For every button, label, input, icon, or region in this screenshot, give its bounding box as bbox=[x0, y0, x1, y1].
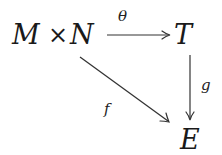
commutative-diagram: M × N T E θ g f bbox=[0, 0, 222, 155]
arrow-g-label: g bbox=[201, 76, 211, 94]
node-t: T bbox=[174, 19, 194, 50]
times-operator: × bbox=[48, 21, 68, 49]
node-m-times-n: M × N bbox=[11, 19, 95, 50]
arrow-theta-label: θ bbox=[118, 7, 127, 25]
node-e: E bbox=[179, 124, 200, 155]
arrow-theta: θ bbox=[107, 7, 170, 39]
arrow-g: g bbox=[186, 55, 211, 120]
arrow-f: f bbox=[80, 57, 169, 122]
arrow-f-shaft bbox=[80, 57, 168, 121]
node-n: N bbox=[69, 19, 95, 50]
arrow-f-label: f bbox=[103, 100, 112, 118]
node-m: M bbox=[11, 19, 41, 50]
